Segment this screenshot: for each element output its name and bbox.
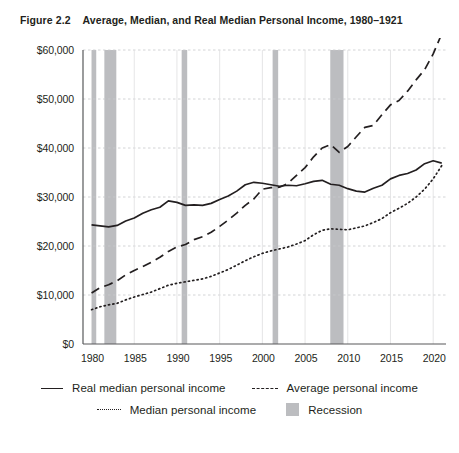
- gridlines-group: [83, 50, 446, 344]
- series-line-solid: [92, 161, 442, 227]
- x-tick-label: 1980: [81, 352, 104, 364]
- x-tick-label: 2020: [423, 352, 446, 364]
- y-tick-label: $40,000: [37, 142, 75, 154]
- x-tick-label: 1985: [124, 352, 147, 364]
- dotted-line-icon: [97, 409, 121, 410]
- legend-item-median-personal-income: Median personal income: [97, 404, 256, 416]
- x-tick-label: 1995: [209, 352, 232, 364]
- chart-legend: Real median personal income Average pers…: [0, 382, 459, 416]
- figure-number: Figure 2.2: [20, 14, 71, 26]
- x-tick-label: 1990: [166, 352, 189, 364]
- legend-item-average-personal-income: Average personal income: [252, 382, 418, 394]
- solid-line-icon: [41, 388, 63, 389]
- legend-item-real-median-personal-income: Real median personal income: [41, 382, 226, 394]
- gray-band-icon: [286, 403, 299, 416]
- y-tick-label: $30,000: [37, 191, 75, 203]
- y-axis-tick-labels: $0$10,000$20,000$30,000$40,000$50,000$60…: [37, 44, 75, 350]
- figure-2-2-container: Figure 2.2 Average, Median, and Real Med…: [0, 0, 459, 453]
- y-tick-label: $60,000: [37, 44, 75, 56]
- figure-title: Average, Median, and Real Median Persona…: [83, 14, 403, 26]
- y-tick-label: $20,000: [37, 240, 75, 252]
- x-tick-label: 2015: [380, 352, 403, 364]
- x-tick-label: 2005: [295, 352, 318, 364]
- recession-band: [330, 50, 343, 344]
- legend-item-recession: Recession: [286, 403, 362, 416]
- legend-row-2: Median personal income Recession: [0, 403, 459, 416]
- legend-label-recession: Recession: [308, 404, 362, 416]
- series-line-dashed: [92, 38, 442, 293]
- series-line-dotted: [92, 166, 442, 310]
- legend-label-real-median-personal-income: Real median personal income: [72, 382, 226, 394]
- line-chart-svg: $0$10,000$20,000$30,000$40,000$50,000$60…: [0, 38, 459, 368]
- chart-plot-area: $0$10,000$20,000$30,000$40,000$50,000$60…: [0, 38, 459, 368]
- x-tick-label: 2000: [252, 352, 275, 364]
- series-lines-group: [92, 38, 442, 310]
- x-tick-label: 2010: [337, 352, 360, 364]
- y-tick-label: $10,000: [37, 289, 75, 301]
- legend-row-1: Real median personal income Average pers…: [0, 382, 459, 394]
- legend-label-median-personal-income: Median personal income: [130, 404, 256, 416]
- legend-label-average-personal-income: Average personal income: [287, 382, 418, 394]
- x-axis-tick-labels: 198019851990199520002005201020152020: [81, 352, 446, 364]
- y-tick-label: $50,000: [37, 93, 75, 105]
- figure-title-row: Figure 2.2 Average, Median, and Real Med…: [20, 14, 450, 30]
- y-tick-label: $0: [63, 338, 75, 350]
- dashed-line-icon: [252, 388, 278, 389]
